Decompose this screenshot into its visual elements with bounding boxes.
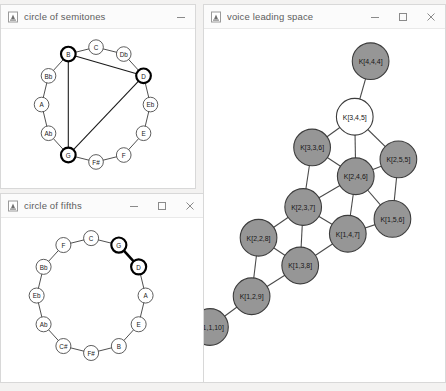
node-label: K[1,2,9]	[240, 293, 264, 301]
graph-node[interactable]: Bb	[41, 69, 56, 84]
circle-of-semitones-graph: CDbDEbEFF#GAbABbB	[1, 29, 195, 188]
titlebar-circle-of-semitones[interactable]: circle of semitones	[1, 5, 195, 29]
node-label: F	[122, 152, 126, 159]
graph-node[interactable]: K[1,3,8]	[282, 247, 319, 284]
node-label: C#	[59, 343, 68, 350]
window-circle-of-fifths[interactable]: circle of fifths	[0, 193, 205, 383]
node-label: C	[89, 235, 94, 242]
graph-node[interactable]: Db	[116, 47, 131, 62]
maximize-button[interactable]	[389, 5, 417, 29]
graph-node[interactable]: K[2,5,5]	[380, 141, 417, 178]
graph-node[interactable]: B	[61, 47, 76, 62]
node-label: B	[117, 343, 121, 350]
graph-node[interactable]: C#	[56, 339, 71, 354]
graph-node[interactable]: Ab	[41, 126, 56, 141]
graph-node[interactable]: K[1,5,6]	[374, 201, 411, 238]
graph-node[interactable]: F	[116, 148, 131, 163]
titlebar-voice-leading-space[interactable]: voice leading space	[204, 5, 445, 29]
node-label: G	[116, 242, 121, 249]
app-icon	[7, 200, 19, 212]
graph-node[interactable]: B	[111, 339, 126, 354]
node-label: D	[141, 73, 146, 80]
canvas-circle-of-semitones[interactable]: CDbDEbEFF#GAbABbB	[1, 29, 195, 188]
node-label: Eb	[147, 101, 155, 108]
node-label: Ab	[40, 321, 48, 328]
node-label: K[2,5,5]	[386, 156, 410, 164]
graph-node[interactable]: C	[84, 231, 99, 246]
window-circle-of-semitones[interactable]: circle of semitones CDbDEbEFF#GAbABbB	[0, 4, 196, 189]
close-button[interactable]	[176, 194, 204, 218]
ring-edges	[37, 238, 146, 353]
node-label: K[1,1,10]	[204, 324, 224, 332]
node-label: K[1,4,7]	[336, 231, 360, 239]
graph-node[interactable]: D	[136, 69, 151, 84]
chord-edge	[68, 76, 143, 155]
node-label: K[2,4,6]	[344, 173, 368, 181]
window-title: circle of semitones	[24, 11, 167, 22]
graph-node[interactable]: D	[131, 259, 146, 274]
node-label: E	[141, 130, 145, 137]
window-controls	[120, 194, 204, 217]
graph-node[interactable]: Eb	[143, 97, 158, 112]
graph-node[interactable]: F#	[89, 155, 104, 170]
graph-node[interactable]: Bb	[36, 259, 51, 274]
node-label: K[4,4,4]	[359, 58, 383, 66]
node-label: E	[137, 321, 141, 328]
node-label: F	[61, 242, 65, 249]
graph-node[interactable]: K[4,4,4]	[352, 43, 389, 80]
node-label: K[1,5,6]	[380, 216, 404, 224]
desktop: circle of semitones CDbDEbEFF#GAbABbB	[0, 0, 446, 391]
graph-node[interactable]: K[3,3,6]	[294, 129, 331, 166]
graph-node[interactable]: E	[136, 126, 151, 141]
node-label: K[1,3,8]	[288, 262, 312, 270]
graph-node[interactable]: K[2,3,7]	[285, 189, 322, 226]
graph-node[interactable]: K[2,4,6]	[337, 158, 374, 195]
graph-node[interactable]: G	[61, 148, 76, 163]
window-voice-leading-space[interactable]: voice leading space	[203, 4, 446, 383]
node-label: F#	[92, 159, 100, 166]
window-controls	[167, 5, 195, 28]
close-button[interactable]	[417, 5, 445, 29]
canvas-circle-of-fifths[interactable]: CGDAEBF#C#AbEbBbF	[1, 218, 204, 382]
graph-node[interactable]: Ab	[36, 317, 51, 332]
node-label: D	[136, 264, 141, 271]
graph-node[interactable]: A	[138, 288, 153, 303]
minimize-button[interactable]	[361, 5, 389, 29]
graph-node[interactable]: A	[34, 97, 49, 112]
minimize-button[interactable]	[167, 5, 195, 29]
graph-node[interactable]: G	[111, 238, 126, 253]
node-label: K[2,2,8]	[247, 235, 271, 243]
node-label: C	[94, 44, 99, 51]
node-label: K[3,4,5]	[343, 114, 367, 122]
node-label: K[3,3,6]	[300, 144, 324, 152]
graph-node[interactable]: K[3,4,5]	[336, 98, 373, 135]
chord-edges	[68, 54, 143, 155]
node-label: Bb	[40, 264, 48, 271]
minimize-button[interactable]	[120, 194, 148, 218]
node-label: Eb	[33, 292, 41, 299]
window-title: circle of fifths	[24, 200, 120, 211]
graph-node[interactable]: E	[131, 317, 146, 332]
node-label: K[2,3,7]	[291, 204, 315, 212]
node-label: Bb	[45, 73, 53, 80]
graph-node[interactable]: C	[89, 40, 104, 55]
node-label: F#	[87, 350, 95, 357]
node-label: Ab	[45, 130, 53, 137]
maximize-button[interactable]	[148, 194, 176, 218]
app-icon	[7, 11, 19, 23]
graph-node[interactable]: F	[56, 238, 71, 253]
node-label: B	[66, 51, 70, 58]
canvas-voice-leading-space[interactable]: K[4,4,4]K[3,4,5]K[3,3,6]K[2,5,5]K[2,4,6]…	[204, 29, 445, 382]
circle-of-fifths-graph: CGDAEBF#C#AbEbBbF	[1, 218, 204, 382]
graph-node[interactable]: Eb	[29, 288, 44, 303]
graph-node[interactable]: K[2,2,8]	[240, 219, 277, 256]
graph-node[interactable]: K[1,4,7]	[329, 215, 366, 252]
node-label: Db	[120, 51, 129, 58]
app-icon	[210, 11, 222, 23]
graph-node[interactable]: K[1,1,10]	[204, 309, 228, 346]
graph-node[interactable]: K[1,2,9]	[233, 278, 270, 315]
graph-node[interactable]: F#	[84, 345, 99, 360]
node-label: G	[66, 152, 71, 159]
window-controls	[361, 5, 445, 28]
titlebar-circle-of-fifths[interactable]: circle of fifths	[1, 194, 204, 218]
